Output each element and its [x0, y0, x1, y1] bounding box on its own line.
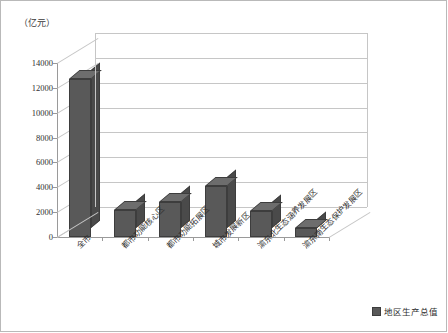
y-tick-label: 14000: [7, 58, 53, 68]
y-tick-mark: [53, 138, 57, 139]
y-axis-unit-label: （亿元）: [19, 16, 55, 29]
gridline: [95, 132, 367, 133]
y-tick-label: 4000: [7, 182, 53, 192]
gridline: [95, 33, 367, 34]
depth-connector: [57, 38, 99, 64]
x-tick-mark: [102, 237, 103, 241]
gridline: [95, 157, 367, 158]
y-tick-label: 10000: [7, 108, 53, 118]
y-tick-label: 12000: [7, 83, 53, 93]
bar-front-face: [69, 79, 91, 237]
bar[interactable]: [69, 79, 91, 237]
plot-back-right-edge: [367, 33, 368, 207]
y-tick-label: 2000: [7, 207, 53, 217]
legend-label: 地区生产总值: [384, 305, 438, 317]
x-tick-mark: [284, 237, 285, 241]
y-tick-label: 8000: [7, 133, 53, 143]
gridline: [95, 83, 367, 84]
x-tick-mark: [238, 237, 239, 241]
y-tick-mark: [53, 212, 57, 213]
gridline: [95, 58, 367, 59]
gridline: [95, 108, 367, 109]
y-tick-label: 6000: [7, 157, 53, 167]
y-tick-mark: [53, 113, 57, 114]
x-tick-mark: [148, 237, 149, 241]
y-tick-mark: [53, 63, 57, 64]
chart-legend: 地区生产总值: [372, 305, 438, 317]
x-tick-mark: [193, 237, 194, 241]
y-tick-mark: [53, 162, 57, 163]
y-tick-mark: [53, 187, 57, 188]
y-tick-mark: [53, 88, 57, 89]
y-tick-label: 0: [7, 232, 53, 242]
plot-area: 02000400060008000100001200014000: [57, 33, 367, 237]
legend-swatch-icon: [372, 307, 381, 316]
plot-back-left-edge: [95, 33, 96, 207]
chart-frame: （亿元） 02000400060008000100001200014000 全市…: [0, 0, 447, 332]
